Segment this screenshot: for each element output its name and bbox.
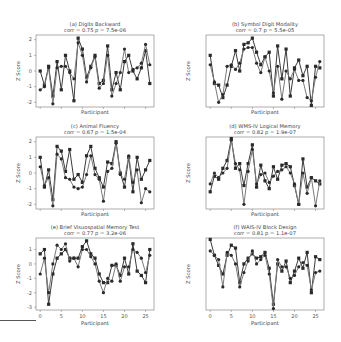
data-point-marker xyxy=(280,265,283,268)
data-point-marker xyxy=(310,288,313,291)
data-point-marker xyxy=(280,270,283,273)
data-point-marker xyxy=(318,270,321,273)
data-point-marker xyxy=(259,258,262,261)
data-point-marker xyxy=(230,254,233,257)
data-point-marker xyxy=(225,251,228,254)
data-point-marker xyxy=(217,258,220,261)
data-point-marker xyxy=(255,262,258,265)
data-point-marker xyxy=(234,246,237,249)
data-point-marker xyxy=(209,249,212,252)
x-tick-label: 25 xyxy=(312,313,318,319)
data-point-marker xyxy=(247,259,250,262)
y-axis-label: Z Score xyxy=(185,264,191,284)
x-tick-label: 5 xyxy=(230,313,233,319)
data-point-marker xyxy=(251,249,254,252)
data-point-marker xyxy=(272,307,275,310)
data-point-marker xyxy=(314,255,317,258)
data-point-marker xyxy=(284,265,287,268)
data-point-marker xyxy=(289,281,292,284)
figure: (a) Digits Backwardcorr = 0.75 p = 7.5e-… xyxy=(0,0,341,342)
data-point-marker xyxy=(301,267,304,270)
line-chart: 0510152025ParticipantZ Score xyxy=(0,0,341,342)
data-point-marker xyxy=(306,264,309,267)
divider-line xyxy=(0,320,36,321)
data-point-marker xyxy=(230,244,233,247)
data-point-marker xyxy=(242,262,245,265)
series-line xyxy=(210,251,320,309)
data-point-marker xyxy=(268,272,271,275)
data-point-marker xyxy=(293,274,296,277)
series-line xyxy=(210,239,320,304)
chart-panel: (f) WAIS-IV Block Designcorr = 0.81 p = … xyxy=(0,0,341,342)
data-point-marker xyxy=(234,262,237,265)
data-point-marker xyxy=(297,265,300,268)
data-point-marker xyxy=(301,261,304,264)
data-point-marker xyxy=(306,251,309,254)
data-point-marker xyxy=(242,271,245,274)
data-point-marker xyxy=(213,254,216,257)
data-point-marker xyxy=(284,259,287,262)
data-point-marker xyxy=(221,285,224,288)
data-point-marker xyxy=(289,277,292,280)
data-point-marker xyxy=(209,238,212,241)
x-tick-label: 20 xyxy=(291,313,297,319)
x-tick-label: 15 xyxy=(270,313,276,319)
data-point-marker xyxy=(276,258,279,261)
data-point-marker xyxy=(318,258,321,261)
data-point-marker xyxy=(263,254,266,257)
data-point-marker xyxy=(297,257,300,260)
x-axis-label: Participant xyxy=(251,320,279,327)
data-point-marker xyxy=(310,291,313,294)
x-tick-label: 10 xyxy=(249,313,255,319)
data-point-marker xyxy=(314,271,317,274)
x-tick-label: 0 xyxy=(209,313,212,319)
data-point-marker xyxy=(263,251,266,254)
data-point-marker xyxy=(238,285,241,288)
